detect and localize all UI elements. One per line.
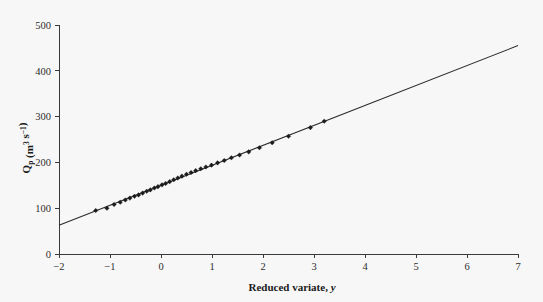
y-tick-label: 500 [35, 20, 51, 31]
x-axis-title-variable: y [329, 281, 336, 293]
y-axis-title-exponent-minus1: −1 [19, 126, 28, 134]
flood-frequency-chart: 0100200300400500−2−101234567 Reduced var… [0, 0, 543, 302]
x-tick-label: 5 [413, 261, 418, 272]
x-tick-label: 0 [158, 261, 163, 272]
x-tick-label: −2 [53, 261, 64, 272]
y-tick-label: 400 [35, 66, 51, 77]
x-tick-label: 2 [260, 261, 265, 272]
y-tick-label: 100 [35, 203, 51, 214]
y-tick-label: 0 [46, 249, 51, 260]
x-axis-title: Reduced variate, y [248, 281, 335, 293]
x-tick-label: 3 [311, 261, 316, 272]
y-tick-label: 300 [35, 111, 51, 122]
x-tick-label: 7 [515, 261, 520, 272]
y-tick-label: 200 [35, 157, 51, 168]
chart-background [0, 0, 543, 302]
x-tick-label: 4 [362, 261, 368, 272]
y-axis-title-units-open: (m [23, 145, 36, 161]
x-tick-label: 6 [464, 261, 469, 272]
x-axis-title-text: Reduced variate, [248, 281, 330, 293]
y-axis-title-units-close: ) [16, 122, 29, 126]
x-tick-label: 1 [209, 261, 214, 272]
x-tick-label: −1 [104, 261, 115, 272]
